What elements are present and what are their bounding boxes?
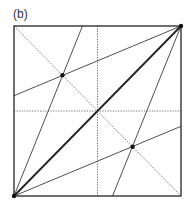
- corner-top-right-dot: [179, 24, 183, 28]
- crease-pattern-diagram: [0, 0, 189, 209]
- lower-right-intersection-dot: [130, 145, 134, 149]
- corner-bottom-left-dot: [12, 194, 16, 198]
- upper-left-intersection-dot: [60, 73, 64, 77]
